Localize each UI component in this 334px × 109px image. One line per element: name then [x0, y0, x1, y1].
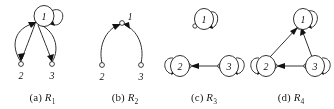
edge-2-to-1: [101, 24, 121, 63]
caption-d-subscript: 4: [300, 97, 304, 106]
node-2-label: 2: [19, 70, 24, 81]
caption-a-symbol: R: [45, 91, 52, 103]
edge-1-to-2: [18, 24, 35, 62]
node-1-label: 1: [202, 14, 207, 25]
node-3: 3: [220, 56, 239, 77]
node-2: 2: [100, 63, 105, 82]
node-3-label: 3: [49, 70, 55, 81]
node-1-label: 1: [301, 14, 306, 25]
caption-c-prefix: (c): [191, 91, 204, 103]
node-1: 1: [195, 9, 214, 30]
figure-panel-a: 1 2 3 (a) R1: [0, 0, 85, 109]
figure-panel-b: 1 2 3 (b) R2: [85, 0, 165, 109]
caption-a-subscript: 1: [52, 97, 56, 106]
node-2: 2: [171, 56, 190, 77]
caption-b-prefix: (b): [112, 91, 125, 103]
figure-panel-c: 1 2: [160, 0, 248, 109]
caption-b: (b) R2: [85, 86, 165, 109]
node-2-label: 2: [264, 61, 269, 72]
edge-3-to-1: [300, 27, 312, 57]
node-3-label: 3: [312, 61, 318, 72]
edge-3-to-2: [187, 63, 222, 69]
digraph-b: 1 2 3: [85, 0, 165, 86]
digraph-c: 1 2: [160, 0, 248, 86]
edge-3-to-1: [123, 22, 142, 63]
figure-panel-d: 1 2 3 (d) R4: [248, 0, 334, 109]
edge-2-to-1: [270, 27, 298, 57]
caption-c: (c) R3: [160, 86, 248, 109]
edge-1-to-3: [38, 25, 54, 62]
node-3-label: 3: [226, 61, 232, 72]
node-1: 1: [34, 6, 54, 27]
caption-d-prefix: (d): [278, 91, 291, 103]
node-2-label: 2: [100, 71, 105, 82]
caption-b-subscript: 2: [134, 97, 138, 106]
node-1-label: 1: [128, 12, 133, 22]
digraph-d: 1 2 3: [248, 0, 334, 86]
digraph-a: 1 2 3: [0, 0, 85, 86]
node-1: 1: [294, 9, 313, 30]
node-2: 2: [19, 62, 24, 81]
node-3: 3: [306, 56, 325, 77]
caption-a-prefix: (a): [29, 91, 42, 103]
figure-root: 1 2 3 (a) R1: [0, 0, 334, 109]
node-2: 2: [257, 56, 276, 77]
caption-c-subscript: 3: [213, 97, 217, 106]
node-2-label: 2: [178, 61, 183, 72]
edge-3-to-2: [273, 63, 308, 69]
node-3: 3: [138, 63, 144, 82]
node-3-label: 3: [138, 71, 144, 82]
caption-a: (a) R1: [0, 86, 85, 109]
caption-d: (d) R4: [248, 86, 334, 109]
node-3: 3: [49, 62, 55, 81]
node-1-label: 1: [42, 11, 47, 22]
